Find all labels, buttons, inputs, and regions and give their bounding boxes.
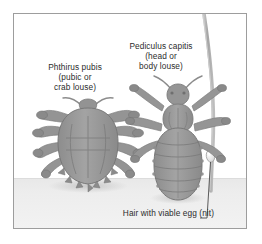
nit-caption-line1: Hair with viable egg (nit): [94, 208, 214, 218]
head-louse-head: [167, 84, 189, 105]
lice-illustration-figure: Phthirus pubis (pubic or crab louse) Ped…: [0, 0, 262, 244]
head-louse-caption-line3: body louse): [108, 61, 214, 71]
illustration-scene: Phthirus pubis (pubic or crab louse) Ped…: [14, 14, 246, 228]
crab-louse-caption-line2: (pubic or: [22, 72, 128, 82]
nit-caption: Hair with viable egg (nit): [94, 208, 214, 218]
illustration-frame: Phthirus pubis (pubic or crab louse) Ped…: [13, 13, 247, 229]
head-louse-caption: Pediculus capitis (head or body louse): [108, 41, 214, 72]
crab-louse-specimen: [33, 98, 144, 193]
head-louse-caption-line2: (head or: [108, 51, 214, 61]
crab-louse-caption-line3: crab louse): [22, 82, 128, 92]
head-louse-caption-line1: Pediculus capitis: [108, 41, 214, 51]
